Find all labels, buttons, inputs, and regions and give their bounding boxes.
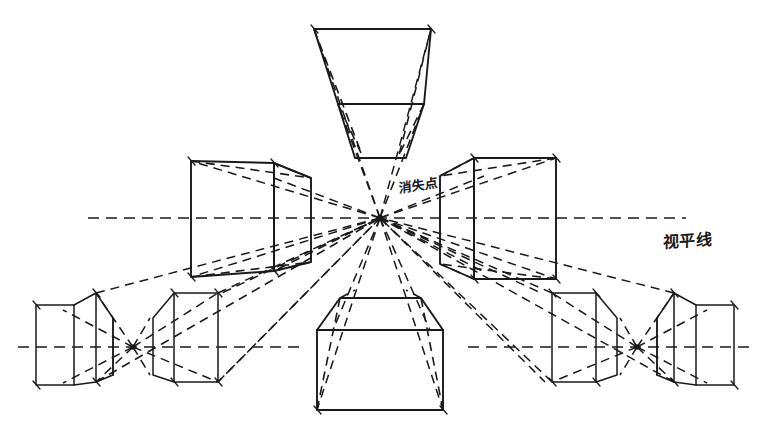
eye-level-label: 视平线 bbox=[663, 226, 713, 254]
lower-right-outer-box bbox=[671, 289, 738, 389]
top-box bbox=[311, 25, 435, 158]
lower-right-inner-box bbox=[549, 289, 617, 386]
lower-left-outer-box bbox=[33, 289, 100, 389]
perspective-construction-drawing bbox=[0, 0, 770, 433]
lower-left-vanishing-point-dot bbox=[130, 344, 136, 350]
lower-right-vanishing-point-dot bbox=[634, 344, 640, 350]
lower-right-vp-construction-rays bbox=[380, 218, 707, 383]
perspective-diagram-canvas: 消失点 视平线 bbox=[0, 0, 770, 433]
lower-left-vp-construction-rays bbox=[63, 218, 380, 383]
lower-left-inner-box bbox=[153, 289, 222, 386]
bottom-box bbox=[314, 290, 447, 414]
